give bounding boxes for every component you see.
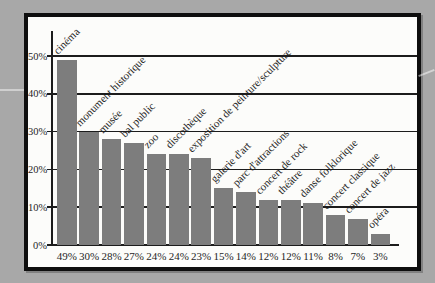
- scan-artifact-left: [0, 89, 24, 91]
- bar-value-label: 28%: [100, 250, 122, 263]
- y-tick-label: 10%: [28, 201, 47, 214]
- y-axis-line: [51, 31, 53, 246]
- y-tick-label: 50%: [28, 50, 47, 63]
- bar-value-label: 7%: [347, 250, 369, 263]
- y-tick-label: 30%: [28, 125, 47, 138]
- bar: [102, 139, 122, 245]
- bar-value-label: 14%: [235, 250, 257, 263]
- bar: [169, 154, 189, 245]
- y-tick-label: 40%: [28, 87, 47, 100]
- plot-area: 0%10%20%30%40%50%49%cinéma30%monument hi…: [28, 17, 417, 267]
- bar: [281, 200, 301, 245]
- category-label: cinéma: [51, 25, 83, 57]
- bar: [124, 143, 144, 245]
- bar-value-label: 30%: [78, 250, 100, 263]
- bar-value-label: 11%: [302, 250, 324, 263]
- bar-value-label: 15%: [212, 250, 234, 263]
- bar-value-label: 12%: [257, 250, 279, 263]
- bar: [303, 203, 323, 245]
- gridline: [52, 55, 417, 57]
- page-background: { "window": { "background_color": "#a8a8…: [0, 0, 435, 283]
- chart-frame: 0%10%20%30%40%50%49%cinéma30%monument hi…: [24, 13, 421, 271]
- category-label: opéra: [364, 204, 390, 230]
- bar: [326, 215, 346, 245]
- bar-value-label: 8%: [324, 250, 346, 263]
- bar-value-label: 23%: [190, 250, 212, 263]
- bar: [57, 60, 77, 245]
- bar: [79, 132, 99, 245]
- bar-value-label: 24%: [145, 250, 167, 263]
- bar-value-label: 27%: [123, 250, 145, 263]
- bar: [371, 234, 391, 245]
- y-tick-label: 0%: [28, 239, 47, 252]
- bar-value-label: 24%: [168, 250, 190, 263]
- bar: [214, 188, 234, 245]
- bar-value-label: 49%: [56, 250, 78, 263]
- bar-value-label: 12%: [280, 250, 302, 263]
- bar: [259, 200, 279, 245]
- bar: [236, 192, 256, 245]
- bar: [191, 158, 211, 245]
- bar-value-label: 3%: [369, 250, 391, 263]
- y-tick-label: 20%: [28, 163, 47, 176]
- bar: [147, 154, 167, 245]
